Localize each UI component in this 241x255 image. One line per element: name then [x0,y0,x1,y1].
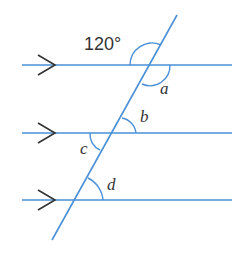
angle-b-label: b [140,107,149,126]
given-angle-label: 120° [84,34,121,54]
angle-arc-d [88,178,103,200]
angle-arc-c [90,133,100,150]
angle-arc-b [122,118,136,133]
angle-a-label: a [160,79,169,98]
angle-d-label: d [107,175,116,194]
angle-c-label: c [80,139,88,158]
angle-diagram: 120° a b c d [0,0,241,255]
angle-arc-120 [130,43,161,65]
